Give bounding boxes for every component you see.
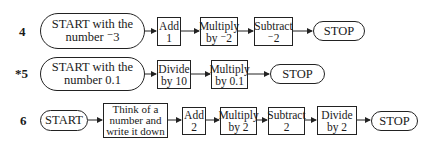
stop-terminal: STOP <box>313 21 365 41</box>
step-box-subtract: Subtract ⁻2 <box>254 17 293 46</box>
step-box-multiply: Multiply by 2 <box>220 107 257 135</box>
step-label: Divide by 10 <box>158 63 189 87</box>
step-label: Add 2 <box>184 109 204 133</box>
problem-number: 6 <box>20 113 27 129</box>
stop-terminal: STOP <box>371 111 418 131</box>
step-label: Subtract 2 <box>267 109 305 133</box>
start-terminal: START with the number 0.1 <box>40 57 145 91</box>
step-box-add: Add 2 <box>182 107 206 135</box>
step-label: Multiply by 2 <box>218 109 258 133</box>
step-box-think: Think of a number and write it down <box>103 103 168 138</box>
stop-label: STOP <box>282 68 312 81</box>
problem-number: 4 <box>19 24 26 40</box>
step-label: Multiply by 0.1 <box>209 63 249 87</box>
step-label: Add 1 <box>159 20 179 44</box>
stop-label: STOP <box>324 25 354 38</box>
start-label: START with the number ⁻3 <box>52 18 133 44</box>
start-label: START with the number 0.1 <box>52 61 133 87</box>
step-label: Divide by 2 <box>321 109 352 133</box>
step-label: Subtract ⁻2 <box>254 20 292 44</box>
step-box-divide: Divide by 10 <box>157 60 191 89</box>
start-terminal: START <box>40 110 88 131</box>
step-box-multiply: Multiply by 0.1 <box>211 60 248 89</box>
start-label: START <box>45 114 83 127</box>
problem-number: *5 <box>15 66 28 82</box>
step-label: Multiply by ⁻2 <box>199 20 239 44</box>
step-box-add: Add 1 <box>157 17 181 46</box>
step-box-divide: Divide by 2 <box>317 106 357 135</box>
step-box-multiply: Multiply by ⁻2 <box>200 17 238 46</box>
stop-label: STOP <box>379 115 409 128</box>
start-terminal: START with the number ⁻3 <box>40 13 145 49</box>
step-box-subtract: Subtract 2 <box>268 107 305 135</box>
stop-terminal: STOP <box>270 64 325 84</box>
step-label: Think of a number and write it down <box>106 104 165 137</box>
